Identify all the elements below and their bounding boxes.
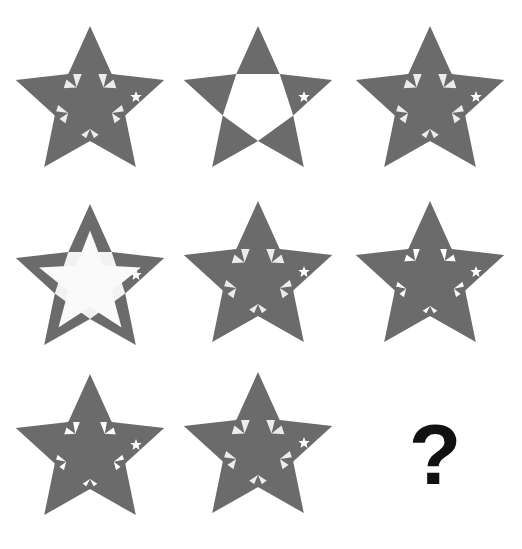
star-figure-7 xyxy=(3,360,177,543)
star-cell-4 xyxy=(3,190,177,373)
question-mark: ? xyxy=(348,362,522,545)
star-figure-1 xyxy=(3,12,177,195)
star-figure-6 xyxy=(343,187,517,370)
star-figure-8 xyxy=(171,358,345,541)
star-cell-6 xyxy=(343,187,517,370)
star-cell-8 xyxy=(171,358,345,541)
star-cell-2 xyxy=(171,12,345,195)
star-cell-5 xyxy=(171,187,345,370)
star-figure-5 xyxy=(171,187,345,370)
star-figure-4 xyxy=(3,190,177,373)
star-cell-1 xyxy=(3,12,177,195)
answer-cell[interactable]: ? xyxy=(348,362,522,545)
star-figure-3 xyxy=(343,12,517,195)
star-cell-7 xyxy=(3,360,177,543)
star-figure-2 xyxy=(171,12,345,195)
star-cell-3 xyxy=(343,12,517,195)
